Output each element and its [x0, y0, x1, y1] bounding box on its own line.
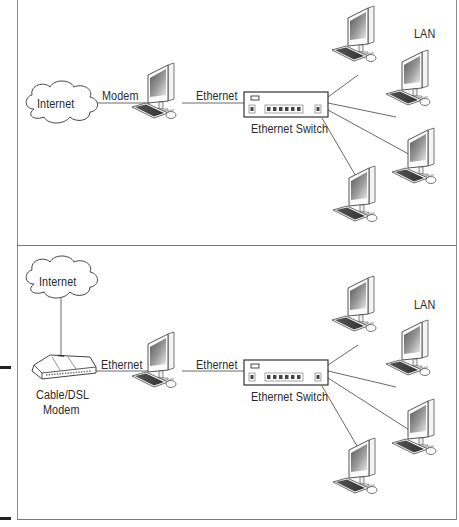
bottom-panel [26, 256, 436, 494]
modem-label-line1: Cable/DSL [36, 388, 89, 402]
ethernet-link-label: Ethernet [196, 89, 238, 103]
switch-label: Ethernet Switch [251, 122, 328, 136]
lan-computer-1 [332, 276, 376, 332]
diagram-frame [17, 0, 457, 520]
diagram-canvas [0, 0, 459, 527]
cable-dsl-modem [32, 355, 96, 379]
ethernet-switch [244, 92, 328, 117]
margin-mark [0, 517, 11, 520]
lan-label: LAN [414, 298, 435, 312]
modem-ethernet-link-label: Ethernet [101, 358, 143, 372]
lan-computer-1 [332, 6, 376, 62]
lan-computer-2 [386, 320, 430, 376]
lan-computer-2 [386, 50, 430, 106]
modem-link-label: Modem [102, 89, 138, 103]
lan-computer-3 [392, 128, 436, 184]
host-computer [132, 63, 176, 119]
ethernet-link-label: Ethernet [196, 358, 238, 372]
lan-computer-3 [392, 399, 436, 455]
internet-label: Internet [39, 275, 76, 289]
lan-computer-4 [333, 438, 377, 494]
modem-label-line2: Modem [43, 403, 79, 417]
ethernet-switch [244, 360, 328, 385]
network-diagram: Internet Modem Ethernet Ethernet Switch … [0, 0, 459, 527]
internet-label: Internet [37, 97, 74, 111]
margin-mark [0, 366, 11, 369]
top-panel [26, 6, 436, 222]
switch-label: Ethernet Switch [251, 390, 328, 404]
lan-label: LAN [414, 27, 435, 41]
